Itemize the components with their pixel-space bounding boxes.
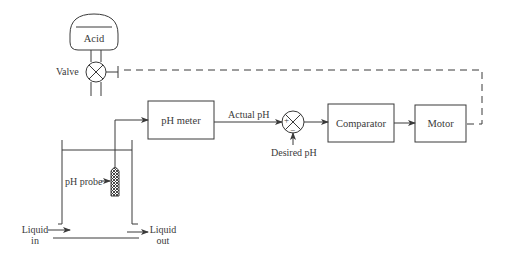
comparator-label: Comparator xyxy=(328,104,394,142)
liquid-out-label: Liquid out xyxy=(148,224,178,246)
liquid-in-label: Liquid in xyxy=(20,224,50,246)
liquid-out-line1: Liquid xyxy=(148,224,178,235)
actual-ph-label: Actual pH xyxy=(228,109,269,120)
liquid-out-line2: out xyxy=(148,235,178,246)
liquid-in-line1: Liquid xyxy=(20,224,50,235)
valve-label: Valve xyxy=(56,66,79,77)
vessel-right-wall xyxy=(132,140,138,224)
minus-sign: − xyxy=(290,125,295,136)
vessel-left-wall xyxy=(58,140,62,224)
desired-ph-label: Desired pH xyxy=(271,147,317,158)
ph-probe-label: pH probe xyxy=(65,176,103,187)
motor-label: Motor xyxy=(415,105,466,142)
ph-meter-label: pH meter xyxy=(148,101,214,139)
plus-sign: + xyxy=(284,115,289,126)
acid-tank-label: Acid xyxy=(70,28,118,48)
liquid-in-line2: in xyxy=(20,235,50,246)
ph-probe-icon xyxy=(111,168,119,197)
